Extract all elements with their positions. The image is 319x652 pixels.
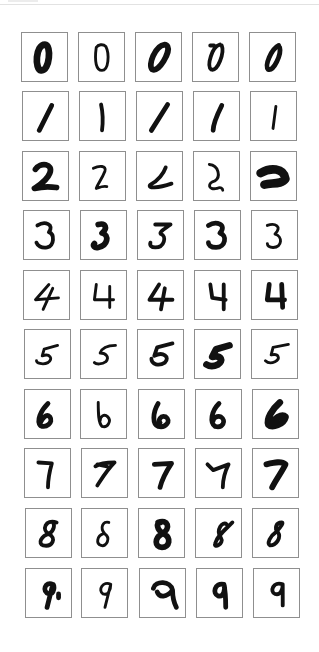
handwritten-digit-6: [253, 390, 298, 438]
handwritten-digit-5: [252, 330, 297, 378]
handwritten-digit-0: [136, 33, 181, 81]
digit-cell-8-4: [195, 508, 242, 558]
digit-cell-9-4: [196, 568, 243, 618]
handwritten-digit-3: [195, 211, 240, 259]
handwritten-digit-7: [139, 449, 184, 497]
handwritten-digit-6: [81, 390, 126, 438]
digit-cell-5-4: [194, 329, 241, 379]
digit-cell-7-4: [195, 448, 242, 498]
digit-cell-4-4: [194, 270, 241, 320]
handwritten-digit-5: [138, 330, 183, 378]
handwritten-digit-4: [138, 271, 183, 319]
handwritten-digit-8: [253, 509, 298, 557]
handwritten-digit-1: [23, 92, 68, 140]
digit-cell-1-2: [79, 91, 126, 141]
handwritten-digit-3: [252, 211, 297, 259]
handwritten-digit-7: [196, 449, 241, 497]
handwritten-digit-4: [24, 271, 69, 319]
digit-cell-0-5: [249, 32, 296, 82]
handwritten-digit-9: [197, 569, 242, 617]
digit-cell-7-1: [24, 448, 71, 498]
digit-cell-9-3: [139, 568, 186, 618]
handwritten-digit-0: [250, 33, 295, 81]
digit-cell-4-5: [251, 270, 298, 320]
handwritten-digit-4: [195, 271, 240, 319]
digit-cell-3-2: [80, 210, 127, 260]
digit-cell-5-1: [24, 329, 71, 379]
handwritten-digit-1: [194, 92, 239, 140]
handwritten-digit-5: [25, 330, 70, 378]
digit-cell-9-2: [81, 568, 128, 618]
digit-cell-1-1: [22, 91, 69, 141]
handwritten-digit-6: [196, 390, 241, 438]
digit-cell-8-2: [81, 508, 128, 558]
handwritten-digit-0: [22, 33, 67, 81]
digit-cell-0-2: [78, 32, 125, 82]
digit-cell-7-2: [81, 448, 128, 498]
digit-cell-2-3: [136, 151, 183, 201]
handwritten-digit-8: [82, 509, 127, 557]
digit-sample-grid: [0, 0, 319, 652]
handwritten-digit-7: [82, 449, 127, 497]
digit-cell-6-5: [252, 389, 299, 439]
digit-cell-2-5: [250, 151, 297, 201]
digit-cell-4-3: [137, 270, 184, 320]
digit-cell-6-2: [80, 389, 127, 439]
digit-cell-8-3: [138, 508, 185, 558]
digit-cell-2-4: [193, 151, 240, 201]
handwritten-digit-9: [26, 569, 71, 617]
digit-cell-5-5: [251, 329, 298, 379]
handwritten-digit-0: [79, 33, 124, 81]
handwritten-digit-9: [82, 569, 127, 617]
handwritten-digit-2: [251, 152, 296, 200]
handwritten-digit-6: [139, 390, 184, 438]
digit-cell-0-3: [135, 32, 182, 82]
digit-cell-6-1: [24, 389, 71, 439]
handwritten-digit-9: [254, 569, 299, 617]
handwritten-digit-3: [138, 211, 183, 259]
digit-cell-5-2: [80, 329, 127, 379]
handwritten-digit-0: [193, 33, 238, 81]
handwritten-digit-5: [81, 330, 126, 378]
digit-cell-7-3: [138, 448, 185, 498]
digit-cell-1-5: [250, 91, 297, 141]
handwritten-digit-2: [194, 152, 239, 200]
handwritten-digit-5: [195, 330, 240, 378]
handwritten-digit-3: [81, 211, 126, 259]
handwritten-digit-2: [23, 152, 68, 200]
handwritten-digit-1: [251, 92, 296, 140]
digit-cell-4-1: [23, 270, 70, 320]
handwritten-digit-2: [80, 152, 125, 200]
digit-cell-0-4: [192, 32, 239, 82]
digit-cell-5-3: [137, 329, 184, 379]
digit-cell-9-5: [253, 568, 300, 618]
handwritten-digit-9: [140, 569, 185, 617]
digit-cell-2-1: [22, 151, 69, 201]
handwritten-digit-6: [25, 390, 70, 438]
handwritten-digit-4: [252, 271, 297, 319]
digit-cell-6-3: [138, 389, 185, 439]
handwritten-digit-7: [253, 449, 298, 497]
digit-cell-3-5: [251, 210, 298, 260]
handwritten-digit-1: [80, 92, 125, 140]
handwritten-digit-1: [137, 92, 182, 140]
handwritten-digit-8: [26, 509, 71, 557]
digit-cell-7-5: [252, 448, 299, 498]
digit-cell-3-1: [23, 210, 70, 260]
digit-cell-8-5: [252, 508, 299, 558]
digit-cell-3-3: [137, 210, 184, 260]
digit-cell-3-4: [194, 210, 241, 260]
digit-cell-0-1: [21, 32, 68, 82]
handwritten-digit-8: [196, 509, 241, 557]
handwritten-digit-2: [137, 152, 182, 200]
digit-cell-2-2: [79, 151, 126, 201]
digit-cell-6-4: [195, 389, 242, 439]
handwritten-digit-4: [81, 271, 126, 319]
digit-cell-1-4: [193, 91, 240, 141]
digit-cell-4-2: [80, 270, 127, 320]
handwritten-digit-8: [139, 509, 184, 557]
handwritten-digit-3: [24, 211, 69, 259]
digit-cell-9-1: [25, 568, 72, 618]
handwritten-digit-7: [25, 449, 70, 497]
digit-cell-1-3: [136, 91, 183, 141]
